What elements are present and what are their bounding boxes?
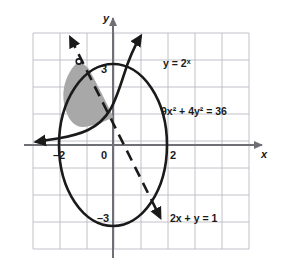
canvas-background bbox=[0, 0, 281, 269]
x-tick-label-2: 2 bbox=[170, 149, 176, 161]
ellipse-equation-label: 9x² + 4y² = 36 bbox=[161, 105, 227, 117]
coordinate-plane-svg: –2 0 2 3 –3 y x y = 2ˣ 9x² + 4y² = 36 2x… bbox=[0, 0, 281, 269]
y-axis-label: y bbox=[102, 12, 110, 24]
x-tick-label-0: 0 bbox=[101, 149, 107, 161]
exponential-equation-label: y = 2ˣ bbox=[163, 57, 191, 69]
ellipse-line-intersection-point bbox=[76, 59, 81, 64]
graph-figure: –2 0 2 3 –3 y x y = 2ˣ 9x² + 4y² = 36 2x… bbox=[0, 0, 281, 269]
x-tick-label-neg2: –2 bbox=[53, 149, 65, 161]
line-equation-label: 2x + y = 1 bbox=[170, 212, 217, 224]
x-axis-label: x bbox=[260, 148, 268, 160]
y-tick-label-neg3: –3 bbox=[97, 212, 109, 224]
y-tick-label-3: 3 bbox=[101, 63, 107, 75]
